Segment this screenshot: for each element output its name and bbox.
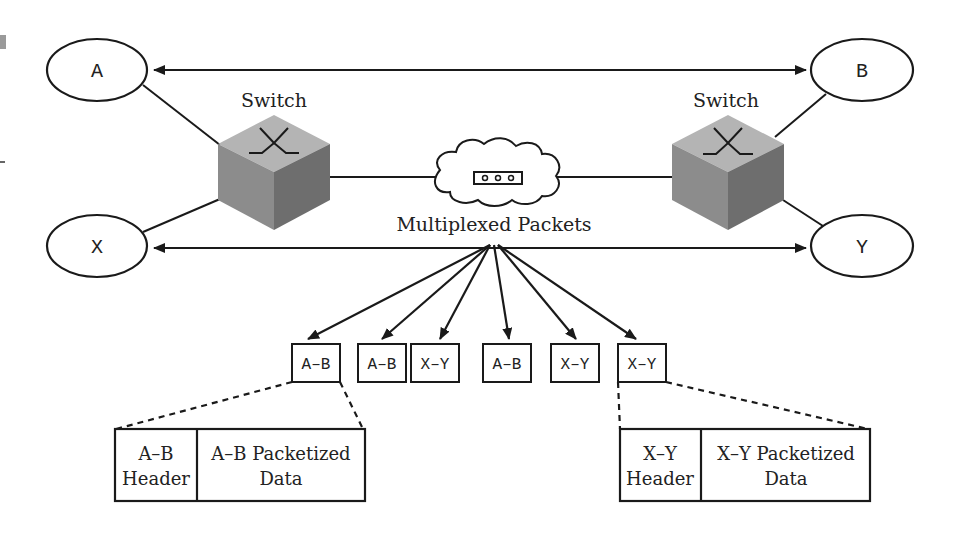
svg-text:X–Y: X–Y xyxy=(561,356,590,374)
switch-left: Switch xyxy=(218,89,330,230)
ab-packet-detail: A–B Header A–B Packetized Data xyxy=(115,429,365,501)
svg-text:A–B: A–B xyxy=(368,356,397,374)
ab-header-line2: Header xyxy=(122,468,190,489)
edge-artifact xyxy=(0,35,6,49)
svg-text:A–B: A–B xyxy=(493,356,522,374)
link-x-switch xyxy=(143,199,220,232)
packet-multiplexing-diagram: A X B Y Switch Switch xyxy=(0,0,960,537)
packet-xy-2: X–Y xyxy=(551,344,599,382)
node-b-label: B xyxy=(856,60,868,83)
link-switch-b xyxy=(775,94,826,137)
ab-data-line2: Data xyxy=(259,468,302,489)
svg-text:A–B: A–B xyxy=(302,356,331,374)
svg-text:X–Y: X–Y xyxy=(628,356,657,374)
node-y-label: Y xyxy=(856,236,868,259)
multiplexer-icon xyxy=(474,172,522,184)
packet-fanout-arrows xyxy=(308,245,636,339)
node-b: B xyxy=(811,39,913,101)
switch-right-label: Switch xyxy=(693,89,759,111)
ab-data-line1: A–B Packetized xyxy=(210,443,350,464)
node-x: X xyxy=(47,215,147,277)
node-x-label: X xyxy=(91,236,103,259)
xy-packet-detail: X–Y Header X–Y Packetized Data xyxy=(620,429,870,501)
xy-data-line1: X–Y Packetized xyxy=(717,443,855,464)
link-switch-y xyxy=(783,200,823,226)
node-a: A xyxy=(47,39,147,101)
expansion-dashed-lines xyxy=(116,382,868,429)
switch-right: Switch xyxy=(672,89,784,230)
network-cloud xyxy=(435,138,559,206)
network-label: Multiplexed Packets xyxy=(396,213,591,235)
switch-left-label: Switch xyxy=(241,89,307,111)
packet-stream: A–B A–B X–Y A–B X–Y X–Y xyxy=(292,344,666,382)
packet-ab-2: A–B xyxy=(358,344,406,382)
link-a-switch xyxy=(143,85,220,145)
svg-text:X–Y: X–Y xyxy=(421,356,450,374)
packet-ab-3: A–B xyxy=(483,344,531,382)
packet-xy-1: X–Y xyxy=(411,344,459,382)
node-a-label: A xyxy=(91,60,103,83)
packet-xy-3: X–Y xyxy=(618,344,666,382)
packet-ab-1: A–B xyxy=(292,344,340,382)
xy-header-line1: X–Y xyxy=(643,443,678,464)
ab-header-line1: A–B xyxy=(137,443,173,464)
xy-header-line2: Header xyxy=(626,468,694,489)
xy-data-line2: Data xyxy=(764,468,807,489)
node-y: Y xyxy=(811,215,913,277)
